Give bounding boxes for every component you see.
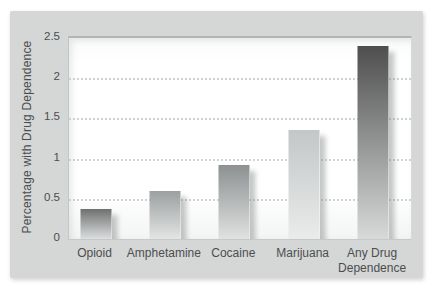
- y-tick-label-0.5: 0.5: [10, 191, 60, 203]
- x-label-cocaine: Cocaine: [211, 246, 255, 261]
- bar-opioid: [80, 209, 111, 239]
- figure: Percentage with Drug Dependence 00.511.5…: [0, 0, 438, 293]
- bar-cocaine: [219, 165, 250, 239]
- y-tick-label-1: 1: [10, 151, 60, 163]
- x-label-amphetamine: Amphetamine: [127, 246, 201, 261]
- bar-marijuana: [288, 130, 319, 239]
- plot-area: [68, 36, 412, 240]
- x-label-opioid: Opioid: [77, 246, 112, 261]
- x-label-marijuana: Marijuana: [276, 246, 329, 261]
- y-tick-label-2: 2: [10, 70, 60, 82]
- chart-panel: Percentage with Drug Dependence 00.511.5…: [10, 11, 423, 278]
- y-tick-label-2.5: 2.5: [10, 30, 60, 42]
- bar-any-drug-dependence: [358, 46, 389, 239]
- x-axis-labels: OpioidAmphetamineCocaineMarijuanaAny Dru…: [68, 246, 410, 278]
- y-tick-label-0: 0: [10, 231, 60, 243]
- y-tick-label-1.5: 1.5: [10, 110, 60, 122]
- x-label-any-drug-dependence: Any Drug Dependence: [338, 246, 406, 276]
- bar-amphetamine: [149, 191, 180, 239]
